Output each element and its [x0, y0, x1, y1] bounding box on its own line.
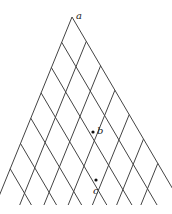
lattice-diagram: a b c [0, 0, 172, 214]
triangular-lattice [0, 0, 172, 214]
label-a: a [76, 11, 82, 21]
lattice-line-left [20, 41, 87, 205]
lattice-line-left [117, 139, 144, 205]
lattice-line-left [141, 163, 158, 205]
point-b [91, 130, 94, 133]
point-c [94, 178, 97, 181]
lattice-line-left [0, 17, 72, 205]
lattice-line-right [10, 169, 31, 205]
label-c: c [93, 186, 99, 196]
lattice-line-right [72, 17, 172, 205]
label-b: b [97, 126, 103, 136]
